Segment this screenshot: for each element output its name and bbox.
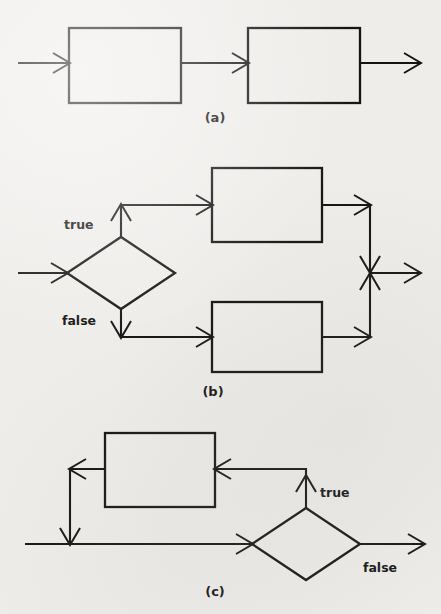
true-label: true xyxy=(320,485,350,500)
false-branch-box xyxy=(212,302,322,372)
flowchart-figure: (a) true false xyxy=(0,0,441,614)
true-branch-line xyxy=(121,205,212,237)
loop-body-box xyxy=(105,433,215,507)
panel-a: (a) xyxy=(18,28,421,125)
true-branch-line xyxy=(215,469,306,508)
panel-a-caption: (a) xyxy=(205,110,226,125)
true-label: true xyxy=(64,217,94,232)
loop-condition-diamond xyxy=(252,508,360,580)
flowchart-canvas: (a) true false xyxy=(0,0,441,614)
false-label: false xyxy=(363,560,397,575)
panel-b-caption: (b) xyxy=(202,384,223,399)
panel-b: true false (b) xyxy=(18,168,421,399)
true-branch-box xyxy=(212,168,322,242)
false-branch-line xyxy=(121,309,212,337)
process-box-1 xyxy=(69,28,181,103)
condition-diamond xyxy=(67,237,175,309)
loop-back-line xyxy=(70,469,105,544)
false-label: false xyxy=(62,313,96,328)
panel-c: true false (c) xyxy=(25,433,425,599)
panel-c-caption: (c) xyxy=(205,584,225,599)
process-box-2 xyxy=(248,28,360,103)
